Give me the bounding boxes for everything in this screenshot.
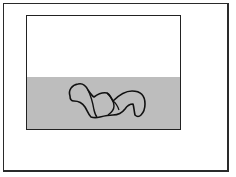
blob-inner-left-divider (88, 90, 97, 117)
blob-outline (0, 0, 236, 177)
blob-inner-right-divider (107, 93, 114, 115)
blob-contour (69, 84, 145, 118)
